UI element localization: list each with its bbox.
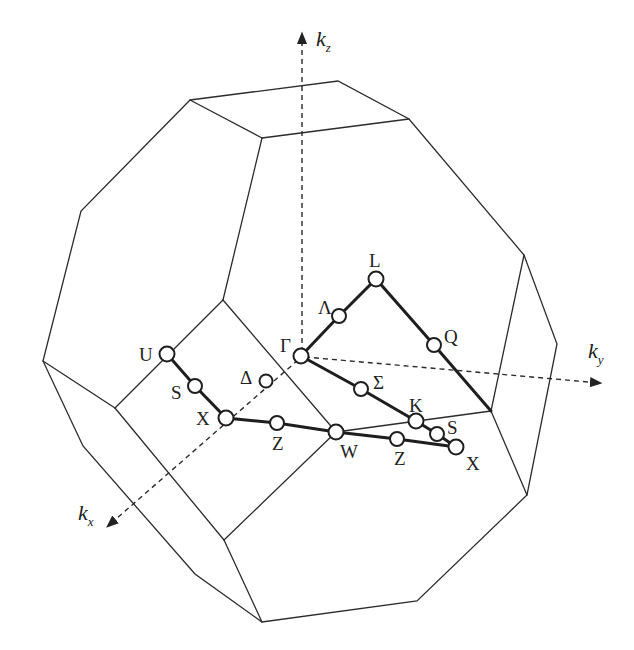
point-S-right: [430, 427, 444, 441]
edge: [224, 540, 262, 622]
label-W: W: [340, 441, 358, 462]
label-K: K: [409, 395, 423, 416]
label-S-right: S: [447, 417, 458, 438]
point-X-left: [219, 411, 234, 426]
label-X-right: X: [466, 453, 480, 474]
point-Z-left: [270, 416, 284, 430]
label-lambda: Λ: [318, 297, 332, 318]
ky-axis: [305, 357, 600, 383]
label-Z-right: Z: [394, 448, 406, 469]
label-gamma: Γ: [280, 335, 291, 356]
point-Z-right: [390, 432, 404, 446]
edge: [223, 138, 262, 300]
point-Q: [427, 338, 441, 352]
ky-label: ky: [588, 338, 604, 367]
edge: [491, 411, 527, 495]
point-W: [329, 425, 344, 440]
kz-label: kz: [316, 26, 331, 55]
label-X-left: X: [196, 408, 210, 429]
point-L: [369, 272, 384, 287]
edge: [262, 119, 409, 138]
brillouin-zone-diagram: kz ky kx Γ Λ L Q Σ K S X Z W: [0, 0, 634, 650]
point-S-left: [188, 379, 202, 393]
label-Z-left: Z: [272, 433, 284, 454]
point-gamma: [294, 349, 309, 364]
edge: [190, 100, 262, 138]
label-sigma: Σ: [373, 372, 384, 393]
point-sigma: [354, 382, 368, 396]
label-S-left: S: [171, 382, 182, 403]
point-lambda: [332, 309, 346, 323]
label-L: L: [369, 250, 381, 271]
point-delta: [260, 375, 273, 388]
edge: [491, 255, 524, 411]
label-U: U: [139, 344, 153, 365]
label-delta: Δ: [240, 367, 252, 388]
label-Q: Q: [444, 326, 458, 347]
point-U: [160, 347, 175, 362]
point-X-right: [449, 440, 464, 455]
kx-label: kx: [78, 500, 94, 529]
